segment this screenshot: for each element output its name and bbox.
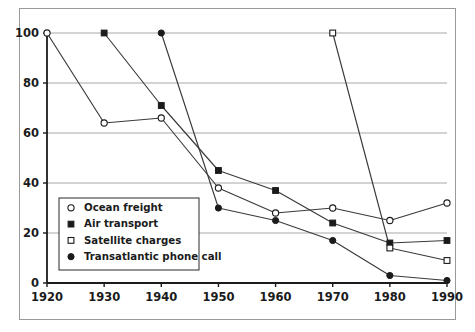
series-1-point-1930 (101, 30, 107, 36)
series-2-point-1970 (330, 30, 336, 36)
chart-legend: Ocean freightAir transportSatellite char… (59, 198, 222, 270)
legend-marker-3 (68, 254, 74, 260)
y-tick-label-60: 60 (23, 126, 39, 140)
series-3-point-1970 (330, 237, 336, 243)
x-tick-label-1930: 1930 (88, 290, 120, 304)
series-2-point-1980 (387, 245, 393, 251)
series-2-point-1990 (444, 258, 450, 264)
series-3-point-1950 (215, 205, 221, 211)
chart-figure: 020406080100 192019301940195019601970198… (0, 0, 475, 332)
x-tick-label-1990: 1990 (431, 290, 463, 304)
series-0-point-1990 (444, 200, 450, 206)
series-0-point-1970 (330, 205, 336, 211)
series-line-0 (47, 33, 447, 221)
series-1-point-1970 (330, 220, 336, 226)
series-line-3 (161, 33, 447, 281)
y-tick-label-40: 40 (23, 176, 39, 190)
series-0-point-1940 (158, 115, 164, 121)
y-tick-label-20: 20 (23, 226, 39, 240)
series-0-point-1950 (215, 185, 221, 191)
series-0-point-1980 (387, 217, 393, 223)
series-3-point-1960 (272, 217, 278, 223)
legend-marker-2 (68, 238, 74, 244)
x-tick-label-1950: 1950 (202, 290, 234, 304)
y-tick-label-80: 80 (23, 76, 39, 90)
series-0-point-1960 (272, 210, 278, 216)
series-0-point-1920 (44, 30, 50, 36)
x-axis-tick-labels: 19201930194019501960197019801990 (31, 290, 463, 304)
series-1-point-1960 (273, 188, 279, 194)
legend-label-2: Satellite charges (84, 235, 181, 246)
line-chart: 020406080100 192019301940195019601970198… (0, 0, 475, 332)
series-1-point-1990 (444, 238, 450, 244)
series-3-point-1990 (444, 277, 450, 283)
y-tick-label-100: 100 (15, 26, 39, 40)
legend-label-0: Ocean freight (84, 202, 163, 213)
series-3-point-1940 (158, 30, 164, 36)
series-1-point-1950 (216, 168, 222, 174)
y-axis-tick-labels: 020406080100 (15, 26, 39, 290)
legend-label-3: Transatlantic phone call (84, 251, 222, 262)
y-tick-label-0: 0 (31, 276, 39, 290)
series-3-point-1980 (387, 272, 393, 278)
series-1-point-1940 (158, 103, 164, 109)
legend-marker-0 (68, 205, 74, 211)
legend-marker-1 (68, 221, 74, 227)
x-tick-label-1960: 1960 (260, 290, 292, 304)
x-tick-label-1980: 1980 (374, 290, 406, 304)
x-tick-label-1940: 1940 (145, 290, 177, 304)
series-0-point-1930 (101, 120, 107, 126)
x-tick-label-1920: 1920 (31, 290, 63, 304)
x-tick-label-1970: 1970 (317, 290, 349, 304)
legend-label-1: Air transport (84, 218, 158, 229)
series-line-2 (333, 33, 447, 261)
